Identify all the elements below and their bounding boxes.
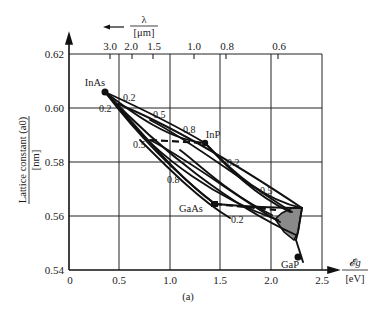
svg-text:GaP: GaP <box>281 259 299 270</box>
svg-text:2.5: 2.5 <box>315 274 329 286</box>
svg-text:0.2: 0.2 <box>227 157 240 168</box>
svg-text:0.5: 0.5 <box>153 109 166 120</box>
svg-text:0: 0 <box>67 274 73 286</box>
svg-text:0.5: 0.5 <box>112 274 126 286</box>
svg-text:0.56: 0.56 <box>45 210 65 222</box>
composition-curves <box>105 92 303 262</box>
svg-text:1.5: 1.5 <box>147 40 161 52</box>
svg-text:2.0: 2.0 <box>264 274 278 286</box>
svg-text:0.6: 0.6 <box>272 40 286 52</box>
top-axis-title: λ [μm] <box>103 14 158 38</box>
svg-text:𝓔g: 𝓔g <box>349 257 360 268</box>
svg-text:1.5: 1.5 <box>213 274 227 286</box>
svg-text:[μm]: [μm] <box>134 27 155 38</box>
svg-text:0.8: 0.8 <box>220 40 234 52</box>
svg-text:0.2: 0.2 <box>231 214 244 225</box>
svg-text:1.0: 1.0 <box>163 274 177 286</box>
svg-text:0.58: 0.58 <box>45 156 65 168</box>
svg-text:0.5: 0.5 <box>133 139 146 150</box>
svg-text:InAs: InAs <box>85 77 105 88</box>
svg-text:[nm]: [nm] <box>30 150 41 170</box>
y-tick-labels: 0.54 0.56 0.58 0.60 0.62 <box>45 48 65 276</box>
svg-text:3.0: 3.0 <box>103 40 117 52</box>
inp-point <box>202 140 208 146</box>
svg-text:0.2: 0.2 <box>99 103 112 114</box>
svg-text:0.2: 0.2 <box>123 92 136 103</box>
svg-text:0.60: 0.60 <box>45 102 65 114</box>
inas-point <box>102 89 109 96</box>
gaas-point <box>211 201 218 207</box>
svg-text:InP: InP <box>206 129 221 140</box>
top-axis-ticks <box>110 54 278 59</box>
svg-text:GaAs: GaAs <box>179 203 203 214</box>
svg-text:[eV]: [eV] <box>345 273 364 284</box>
svg-text:0.62: 0.62 <box>45 48 64 60</box>
svg-text:0.54: 0.54 <box>45 264 65 276</box>
svg-text:0.8: 0.8 <box>167 174 180 185</box>
x-axis-title: 𝓔g [eV] <box>342 257 368 284</box>
top-tick-labels: 3.0 2.0 1.5 1.0 0.8 0.6 <box>103 40 286 52</box>
y-axis-title: Lattice constant (a0) [nm] <box>17 116 41 204</box>
svg-text:1.0: 1.0 <box>187 40 201 52</box>
svg-text:2.0: 2.0 <box>124 40 138 52</box>
svg-text:0.8: 0.8 <box>183 124 196 135</box>
svg-text:0.5: 0.5 <box>260 185 273 196</box>
svg-text:λ: λ <box>141 14 147 25</box>
lattice-constant-chart: 0.54 0.56 0.58 0.60 0.62 0 0.5 1.0 1.5 2… <box>0 0 378 316</box>
svg-text:Lattice constant (a0): Lattice constant (a0) <box>17 116 29 203</box>
x-tick-labels: 0 0.5 1.0 1.5 2.0 2.5 <box>67 274 329 286</box>
figure-caption: (a) <box>182 291 194 303</box>
